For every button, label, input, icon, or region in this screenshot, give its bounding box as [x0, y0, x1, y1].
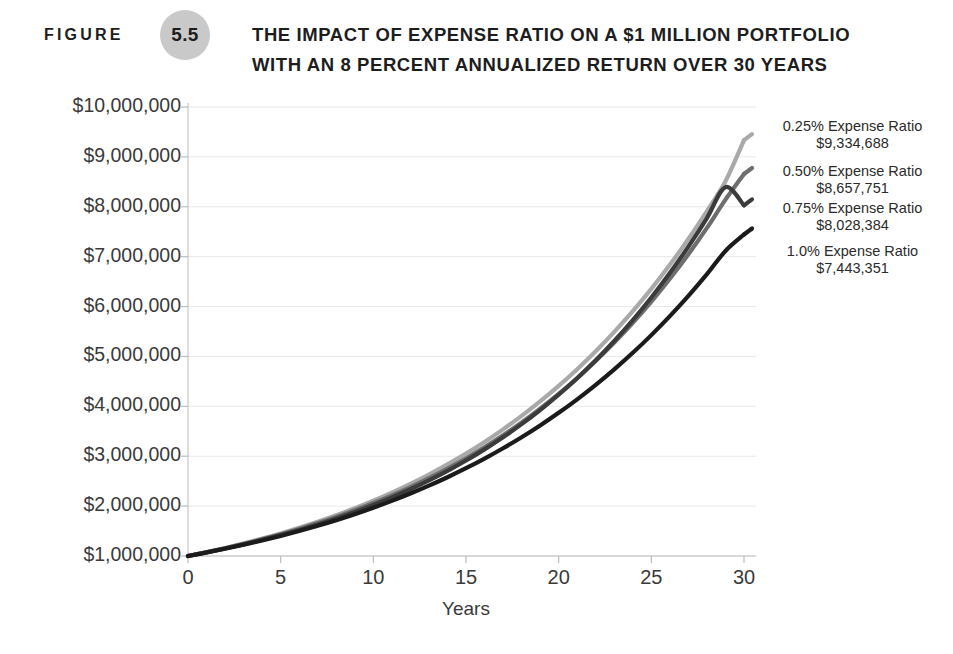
series-annotation-name: 0.25% Expense Ratio [752, 118, 953, 135]
series-line-1 [188, 174, 744, 556]
series-leader-0 [744, 134, 752, 140]
y-axis-tick-label: $6,000,000 [21, 294, 181, 317]
series-leader-2 [744, 199, 752, 205]
series-annotation-value: $8,028,384 [752, 217, 953, 234]
x-axis-tick-label: 15 [436, 566, 496, 589]
series-annotation-name: 0.50% Expense Ratio [752, 163, 953, 180]
x-axis-tick-label: 30 [714, 566, 774, 589]
series-annotation-value: $9,334,688 [752, 135, 953, 152]
y-axis-tick-label: $10,000,000 [21, 94, 181, 117]
series-lines-group [188, 134, 752, 556]
series-annotation: 0.25% Expense Ratio$9,334,688 [752, 118, 953, 152]
series-annotation-value: $8,657,751 [752, 180, 953, 197]
series-line-0 [188, 140, 744, 556]
axis-ticks-group [181, 107, 744, 563]
series-annotation-name: 0.75% Expense Ratio [752, 200, 953, 217]
x-axis-title-text: Years [442, 598, 490, 619]
gridlines-group [188, 107, 756, 556]
series-annotation: 0.75% Expense Ratio$8,028,384 [752, 200, 953, 234]
y-axis-tick-label: $8,000,000 [21, 194, 181, 217]
series-annotations: 0.25% Expense Ratio$9,334,6880.50% Expen… [752, 0, 953, 300]
y-axis-tick-label: $5,000,000 [21, 343, 181, 366]
y-axis-tick-label: $9,000,000 [21, 144, 181, 167]
series-line-2 [188, 187, 744, 556]
y-axis-tick-label: $4,000,000 [21, 393, 181, 416]
y-axis-tick-label: $2,000,000 [21, 493, 181, 516]
y-axis-tick-label: $7,000,000 [21, 244, 181, 267]
x-axis-tick-label: 25 [621, 566, 681, 589]
x-axis-tick-label: 0 [158, 566, 218, 589]
x-axis-tick-label: 10 [343, 566, 403, 589]
series-leader-1 [744, 168, 752, 174]
x-axis-title: Years [0, 598, 744, 620]
x-axis-tick-label: 20 [529, 566, 589, 589]
x-axis-tick-label: 5 [251, 566, 311, 589]
y-axis-tick-label: $1,000,000 [21, 543, 181, 566]
axes-group [188, 103, 756, 556]
series-annotation-name: 1.0% Expense Ratio [752, 243, 953, 260]
series-annotation: 1.0% Expense Ratio$7,443,351 [752, 243, 953, 277]
y-axis-tick-labels: $1,000,000$2,000,000$3,000,000$4,000,000… [18, 0, 181, 654]
y-axis-tick-label: $3,000,000 [21, 443, 181, 466]
chart-container: $1,000,000$2,000,000$3,000,000$4,000,000… [0, 0, 953, 654]
series-annotation: 0.50% Expense Ratio$8,657,751 [752, 163, 953, 197]
x-axis-tick-labels: 051015202530 [0, 566, 953, 600]
series-annotation-value: $7,443,351 [752, 260, 953, 277]
series-leader-3 [744, 229, 752, 235]
